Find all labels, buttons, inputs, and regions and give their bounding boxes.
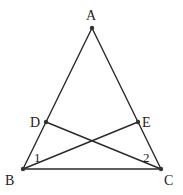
point-d	[44, 120, 48, 124]
point-e	[136, 120, 140, 124]
segment-ac	[92, 28, 161, 169]
label-a: A	[86, 8, 97, 23]
angle-label-2: 2	[143, 150, 150, 165]
angle-label-1: 1	[34, 150, 41, 165]
segment-ab	[23, 28, 92, 169]
label-e: E	[142, 115, 151, 130]
point-c	[159, 167, 163, 171]
label-c: C	[164, 173, 173, 188]
point-b	[21, 167, 25, 171]
label-d: D	[30, 115, 40, 130]
segments-group	[23, 28, 161, 169]
points-group	[21, 26, 163, 171]
label-b: B	[5, 173, 14, 188]
geometry-figure: ABCDE 12	[0, 0, 183, 195]
point-a	[90, 26, 94, 30]
